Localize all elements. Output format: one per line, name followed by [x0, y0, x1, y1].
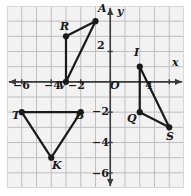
triangles	[7, 6, 184, 188]
tick-label: −6	[13, 80, 30, 91]
tick-label: −2	[68, 80, 85, 91]
tick-label: 4	[145, 80, 153, 91]
axis-name-x: x	[172, 57, 179, 68]
vertex-label-s: S	[166, 131, 174, 142]
tick-label: 2	[97, 40, 105, 51]
vertex-label-b: B	[75, 110, 84, 121]
vertex-label-r: R	[60, 21, 69, 32]
vertex-label-q: Q	[127, 113, 137, 124]
vertex-label-k: K	[52, 160, 62, 171]
tick-label: −4	[44, 80, 61, 91]
coordinate-plane-figure: RAVIQSTBK−6−4−2O42−2−4−6xy	[0, 0, 191, 196]
plot-area	[7, 6, 184, 188]
tick-label: −4	[92, 137, 109, 148]
origin-label: O	[110, 80, 120, 91]
vertex-label-t: T	[12, 110, 20, 121]
tick-label: −6	[92, 168, 109, 179]
vertex-label-i: I	[134, 47, 139, 58]
axis-name-y: y	[117, 6, 123, 17]
tick-label: −2	[92, 106, 109, 117]
vertex-label-a: A	[98, 3, 107, 14]
